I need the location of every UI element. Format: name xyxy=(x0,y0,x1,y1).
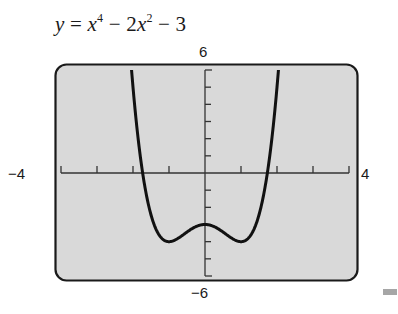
x-min-label: −4 xyxy=(8,166,25,181)
x-max-label: 4 xyxy=(361,166,369,181)
gray-marker-square xyxy=(383,289,397,295)
y-min-label: −6 xyxy=(191,285,208,300)
y-max-label: 6 xyxy=(199,44,207,59)
